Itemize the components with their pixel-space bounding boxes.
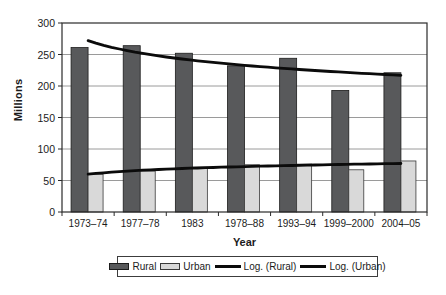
legend-label-urban: Urban <box>183 261 210 272</box>
x-category-label: 1973–74 <box>69 218 108 229</box>
x-category-label: 1978–88 <box>225 218 264 229</box>
rural-bar <box>71 48 88 212</box>
legend-swatch-rural-bar <box>109 263 129 270</box>
urban-bar <box>245 165 260 212</box>
urban-bar <box>140 171 155 212</box>
legend-item-log-urban: Log. (Urban) <box>300 261 385 272</box>
x-category-label: 2004–05 <box>381 218 420 229</box>
x-category-label: 1983 <box>181 218 204 229</box>
y-tick-label: 150 <box>37 112 55 124</box>
rural-bar <box>280 58 297 212</box>
legend-label-rural: Rural <box>132 261 156 272</box>
urban-bar <box>297 164 312 212</box>
y-tick-label: 200 <box>37 80 55 92</box>
legend-swatch-log-urban-line <box>300 265 326 268</box>
y-tick-label: 50 <box>43 175 55 187</box>
rural-bar <box>332 90 349 212</box>
y-tick-label: 250 <box>37 49 55 61</box>
legend-item-rural: Rural <box>109 261 156 272</box>
x-category-label: 1977–78 <box>121 218 160 229</box>
rural-bar <box>175 53 192 212</box>
legend-label-log-urban: Log. (Urban) <box>329 261 385 272</box>
legend: Rural Urban Log. (Rural) Log. (Urban) <box>117 256 378 277</box>
rural-bar <box>123 46 140 212</box>
y-tick-label: 100 <box>37 143 55 155</box>
legend-swatch-log-rural-line <box>215 265 241 268</box>
urban-bar <box>88 174 103 212</box>
y-tick-label: 300 <box>37 17 55 29</box>
legend-swatch-urban-bar <box>160 263 180 270</box>
urban-bar <box>349 170 364 212</box>
urban-bar <box>192 167 207 212</box>
legend-item-urban: Urban <box>160 261 210 272</box>
rural-bar <box>228 66 245 212</box>
y-tick-label: 0 <box>49 206 55 218</box>
x-axis-title: Year <box>62 236 427 248</box>
rural-bar <box>384 73 401 212</box>
legend-item-log-rural: Log. (Rural) <box>215 261 297 272</box>
x-category-label: 1993–94 <box>277 218 316 229</box>
legend-label-log-rural: Log. (Rural) <box>244 261 297 272</box>
plot-area: 0501001502002503001973–741977–7819831978… <box>0 0 446 295</box>
poverty-bar-chart-figure: 0501001502002503001973–741977–7819831978… <box>0 0 446 295</box>
y-axis-title: Millions <box>12 40 26 160</box>
urban-bar <box>401 161 416 212</box>
x-category-label: 1999–2000 <box>324 218 374 229</box>
